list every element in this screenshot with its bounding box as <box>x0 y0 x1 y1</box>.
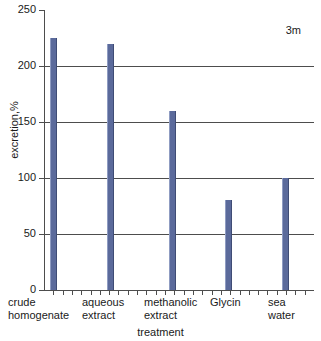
x-axis-minor-tick <box>128 291 129 295</box>
x-axis-minor-tick <box>212 291 213 295</box>
x-axis-minor-tick <box>240 291 241 295</box>
x-axis-minor-tick <box>202 291 203 295</box>
gridline <box>44 234 314 235</box>
x-axis-minor-tick <box>230 291 231 295</box>
x-axis-category-labels: crudehomogenateaqueousextractmethanolice… <box>0 296 321 330</box>
x-axis-category-label: methanolicextract <box>144 296 197 322</box>
x-axis-minor-tick <box>295 291 296 295</box>
x-axis-minor-tick <box>165 291 166 295</box>
y-axis-tick <box>39 122 44 123</box>
y-axis-tick-label: 250 <box>0 4 36 15</box>
y-axis-tick-label: 50 <box>0 228 36 239</box>
bar-chart-figure: excretion,% 3m 250200150100500 crudehomo… <box>0 0 321 341</box>
x-axis-category-label: seawater <box>268 296 295 322</box>
x-axis-category-label: aqueousextract <box>82 296 124 322</box>
x-axis-minor-tick <box>174 291 175 295</box>
x-axis-minor-tick <box>305 291 306 295</box>
bar <box>225 200 232 290</box>
x-axis-minor-tick <box>146 291 147 295</box>
y-axis-tick <box>39 66 44 67</box>
x-axis-minor-tick <box>72 291 73 295</box>
y-axis-tick <box>39 10 44 11</box>
x-axis-minor-tick <box>118 291 119 295</box>
x-axis-category-label: crudehomogenate <box>8 296 69 322</box>
y-axis-tick <box>39 178 44 179</box>
x-axis-minor-tick <box>221 291 222 295</box>
x-axis-minor-tick <box>137 291 138 295</box>
x-axis-minor-tick <box>258 291 259 295</box>
gridline <box>44 122 314 123</box>
gridline <box>44 66 314 67</box>
bar <box>50 38 57 290</box>
bar <box>282 178 289 290</box>
y-axis-tick-label: 150 <box>0 116 36 127</box>
x-axis-minor-tick <box>63 291 64 295</box>
plot-area <box>44 10 314 290</box>
x-axis-minor-tick <box>91 291 92 295</box>
x-axis-minor-tick <box>193 291 194 295</box>
x-axis-minor-tick <box>286 291 287 295</box>
x-axis-minor-tick <box>81 291 82 295</box>
x-axis-minor-tick <box>100 291 101 295</box>
x-axis-title: treatment <box>0 326 321 338</box>
x-axis-ticks <box>44 291 314 295</box>
y-axis-tick-label: 100 <box>0 172 36 183</box>
bar <box>169 111 176 290</box>
x-axis-category-label: Glycin <box>210 296 241 309</box>
bar <box>107 44 114 290</box>
y-axis-line <box>44 10 45 291</box>
y-axis-tick-label: 0 <box>0 284 36 295</box>
x-axis-minor-tick <box>156 291 157 295</box>
x-axis-minor-tick <box>184 291 185 295</box>
x-axis-minor-tick <box>249 291 250 295</box>
gridline <box>44 178 314 179</box>
x-axis-minor-tick <box>277 291 278 295</box>
x-axis-minor-tick <box>53 291 54 295</box>
x-axis-minor-tick <box>267 291 268 295</box>
y-axis-tick-label: 200 <box>0 60 36 71</box>
y-axis-tick <box>39 234 44 235</box>
x-axis-minor-tick <box>109 291 110 295</box>
